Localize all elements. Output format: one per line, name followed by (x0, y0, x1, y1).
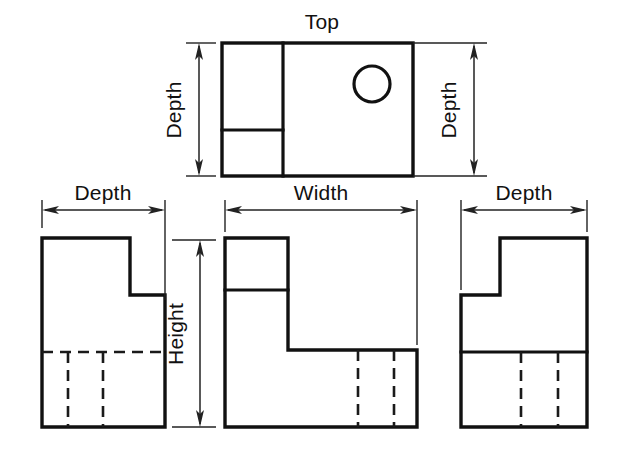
dimension-label-depth-left-view: Depth (74, 181, 131, 204)
technical-drawing-sheet: Top Depth Depth Depth Width Depth Height (0, 0, 625, 458)
dimension-label-width-front-view: Width (294, 181, 349, 204)
dimension-label-height-front-view: Height (164, 303, 187, 365)
dimension-label-depth-right-view: Depth (495, 181, 552, 204)
front-view-outline (225, 238, 417, 427)
front-view-group (225, 238, 417, 427)
top-view-title: Top (305, 10, 339, 33)
left-view-group (42, 238, 165, 427)
dimension-depth-top-left (186, 43, 216, 176)
dimension-label-depth-top-right: Depth (437, 81, 460, 138)
right-view-outline (461, 238, 587, 427)
top-view-outline (222, 43, 413, 176)
top-view-group (222, 43, 413, 176)
orthographic-projection-canvas: Top Depth Depth Depth Width Depth Height (0, 0, 625, 458)
dimension-depth-right-view (461, 200, 587, 290)
dimension-label-depth-top-left: Depth (162, 81, 185, 138)
through-hole-circle-icon (354, 66, 390, 102)
dimension-depth-left-view (42, 200, 165, 300)
dimension-width-front-view (225, 200, 417, 345)
right-view-group (461, 238, 587, 427)
